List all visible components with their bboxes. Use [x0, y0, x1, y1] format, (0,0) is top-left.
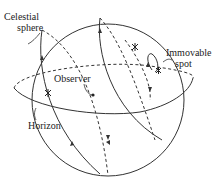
star-trail-left-back — [42, 30, 108, 175]
celestial-sphere-leader — [28, 33, 40, 44]
horizon-back — [14, 64, 193, 88]
horizon-front — [14, 78, 193, 114]
celestial-sphere-outline — [32, 24, 184, 176]
celestial-sphere-label: Celestial — [4, 12, 39, 22]
immovable-spot-label: Immovable — [166, 48, 212, 58]
arrow-icon — [148, 87, 152, 92]
horizon-label: Horizon — [28, 121, 61, 131]
immovable-spot-label-2: spot — [175, 59, 192, 69]
arrow-icon — [106, 135, 110, 140]
immovable-spot-leader — [163, 59, 172, 62]
star-icon — [132, 43, 138, 51]
celestial-sphere-label-2: sphere — [17, 23, 43, 33]
star-icon — [45, 89, 51, 97]
observer-label: Observer — [54, 74, 91, 84]
observer-leader — [84, 84, 92, 95]
arrow-icon — [98, 28, 102, 33]
star-trail-middle — [99, 18, 162, 140]
immovable-spot-loop — [148, 54, 158, 72]
arrow-icon — [106, 140, 110, 145]
